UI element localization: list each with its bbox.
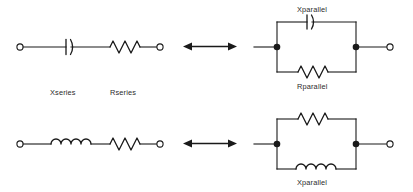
terminal-open-right	[387, 141, 393, 147]
resistor-icon	[298, 113, 328, 125]
terminal-open-right	[157, 141, 163, 147]
circuit-diagram: Xseries Rseries Xparallel Rparallel	[0, 0, 413, 192]
series-rc-circuit	[17, 40, 163, 55]
resistor-icon	[298, 66, 328, 78]
arrow-head-left	[183, 140, 192, 148]
terminal-open-right	[157, 44, 163, 50]
equivalence-arrow-bottom	[183, 140, 237, 148]
arrow-head-right	[228, 140, 237, 148]
arrow-head-right	[228, 43, 237, 51]
equivalence-arrow-top	[183, 43, 237, 51]
terminal-open-left	[17, 141, 23, 147]
parallel-rc-circuit	[254, 15, 393, 78]
inductor-icon	[51, 139, 91, 144]
terminal-open-left	[17, 44, 23, 50]
label-xparallel-rc: Xparallel	[297, 5, 327, 14]
diagram-canvas: Xseries Rseries Xparallel Rparallel	[0, 0, 413, 192]
inductor-icon	[296, 164, 336, 169]
label-xparallel-rl: Xparallel	[297, 178, 327, 187]
resistor-icon	[110, 41, 140, 53]
label-rseries: Rseries	[110, 88, 136, 97]
junction-dot-left	[274, 44, 281, 51]
resistor-icon	[110, 138, 140, 150]
arrow-head-left	[183, 43, 192, 51]
label-rparallel-rc: Rparallel	[297, 82, 328, 91]
label-xseries: Xseries	[50, 88, 76, 97]
series-rl-circuit	[17, 138, 163, 150]
terminal-open-right	[387, 44, 393, 50]
junction-dot-left	[274, 141, 281, 148]
parallel-rl-circuit	[254, 113, 393, 169]
